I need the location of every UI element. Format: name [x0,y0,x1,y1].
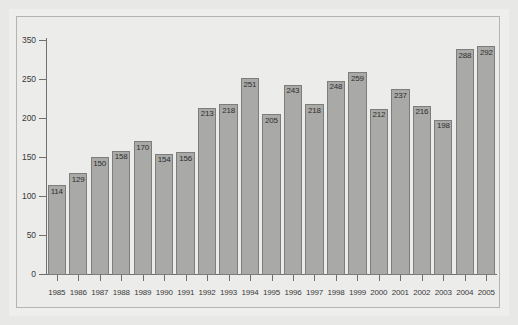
y-axis-tick-label: 150 [2,152,36,162]
bar [434,120,452,275]
bar-value-label: 198 [434,121,452,130]
y-axis-tick-label: 350 [2,35,36,45]
x-axis-tick [357,275,358,281]
bar-value-label: 150 [91,159,109,168]
y-axis-tick [39,196,47,197]
y-axis-tick [39,274,47,275]
x-axis-tick [57,275,58,281]
bar-value-label: 251 [241,80,259,89]
bar [305,104,323,275]
x-axis-tick [314,275,315,281]
bar-value-label: 129 [69,175,87,184]
x-axis-tick [422,275,423,281]
bar-value-label: 212 [370,110,388,119]
x-axis-tick [443,275,444,281]
y-axis-tick [39,118,47,119]
bar [391,89,409,275]
y-axis-tick-label: 200 [2,113,36,123]
y-axis-tick-label: 0 [2,269,36,279]
bar-value-label: 248 [327,82,345,91]
x-axis-tick [465,275,466,281]
x-axis-tick [400,275,401,281]
x-axis-tick [250,275,251,281]
y-axis-tick-label: 100 [2,191,36,201]
bar [48,185,66,275]
plot-area: 3502502001501005001141985129198615019871… [0,0,518,325]
x-axis-tick [293,275,294,281]
y-axis-tick [39,157,47,158]
bar [155,154,173,275]
bar-value-label: 237 [391,91,409,100]
x-axis-tick-label: 2005 [474,288,500,297]
x-axis-tick [207,275,208,281]
bar [456,49,474,275]
bar [413,106,431,276]
bar [477,46,495,275]
x-axis-tick [143,275,144,281]
bar [198,108,216,275]
bar [348,72,366,275]
x-axis-tick [379,275,380,281]
bar-value-label: 216 [413,107,431,116]
bar [69,173,87,275]
bar-value-label: 288 [456,51,474,60]
x-axis-tick [486,275,487,281]
x-axis-tick [78,275,79,281]
bar [284,85,302,276]
bar [176,152,194,275]
x-axis-tick [164,275,165,281]
y-axis-tick [39,40,47,41]
bar [134,141,152,275]
bar-value-label: 292 [477,48,495,57]
bar-value-label: 259 [348,74,366,83]
bar-value-label: 205 [262,116,280,125]
bar-value-label: 218 [305,106,323,115]
bar-value-label: 213 [198,109,216,118]
bar [327,81,345,275]
bar [91,157,109,275]
x-axis-tick [272,275,273,281]
bar [112,151,130,275]
bar-value-label: 170 [134,143,152,152]
y-axis-tick-label: 250 [2,74,36,84]
bar-value-label: 243 [284,86,302,95]
x-axis-tick [121,275,122,281]
bar [370,109,388,275]
chart-container: 3502502001501005001141985129198615019871… [0,0,518,325]
x-axis-tick [229,275,230,281]
bar-value-label: 156 [176,154,194,163]
bar [241,78,259,275]
x-axis-tick [336,275,337,281]
bar-value-label: 114 [48,187,66,196]
bar-value-label: 158 [112,152,130,161]
y-axis-tick [39,79,47,80]
bar-value-label: 154 [155,155,173,164]
bar [262,114,280,275]
bar-value-label: 218 [219,106,237,115]
y-axis-tick [39,235,47,236]
x-axis-tick [186,275,187,281]
bar [219,104,237,275]
x-axis-tick [100,275,101,281]
y-axis-tick-label: 50 [2,230,36,240]
